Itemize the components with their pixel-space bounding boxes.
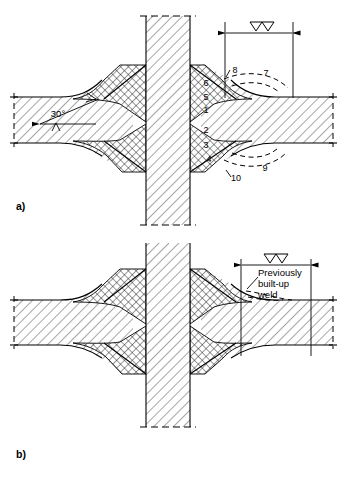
callout-line-1: Previously <box>258 267 302 278</box>
callout-leader-line <box>247 277 258 289</box>
vertical-member <box>140 243 196 427</box>
panel-b: Previously built-up weld b) <box>0 243 347 487</box>
weld-pass-label-3: 3 <box>203 140 208 150</box>
profile-label-7: 7 <box>263 68 268 78</box>
weld-pass-label-2: 2 <box>203 125 208 135</box>
previously-built-up-weld-callout: Previously built-up weld <box>247 267 302 300</box>
profile-label-9: 9 <box>262 163 267 173</box>
welding-cross-section-figure: 30° 6 5 1 2 3 4 8 7 9 10 a) <box>0 0 347 487</box>
vertical-member <box>140 16 196 225</box>
groove-angle-label: 30° <box>51 108 66 119</box>
weld-pass-label-5: 5 <box>203 92 208 102</box>
panel-a: 30° 6 5 1 2 3 4 8 7 9 10 a) <box>0 0 347 243</box>
weld-pass-label-4: 4 <box>206 154 211 164</box>
profile-label-8: 8 <box>232 65 237 75</box>
callout-line-2: built-up <box>258 278 289 289</box>
weld-pass-label-1: 1 <box>203 105 208 115</box>
panel-a-label: a) <box>16 200 25 212</box>
callout-line-3: weld <box>257 289 278 300</box>
panel-b-label: b) <box>16 448 26 460</box>
machining-finish-symbol <box>250 22 274 31</box>
weld-pass-label-6: 6 <box>203 78 208 88</box>
profile-label-10: 10 <box>231 173 241 183</box>
machining-finish-symbol <box>264 254 288 263</box>
